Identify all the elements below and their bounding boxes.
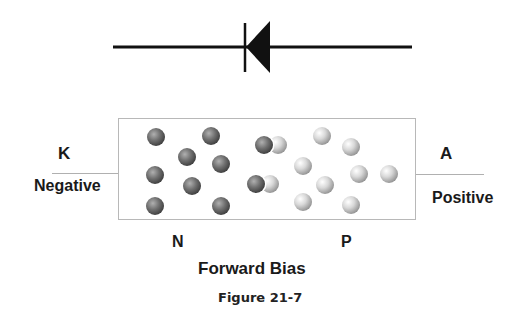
figure-caption: Figure 21-7 (218, 290, 302, 305)
anode-letter-label: A (440, 144, 452, 164)
diagram-title: Forward Bias (198, 259, 306, 279)
cathode-letter-label: K (58, 144, 70, 164)
negative-label: Negative (34, 177, 101, 195)
anode-lead (416, 174, 484, 175)
n-region-label: N (172, 233, 184, 251)
cathode-lead (52, 173, 118, 174)
p-region-label: P (341, 233, 352, 251)
positive-label: Positive (432, 189, 493, 207)
diode-symbol-icon (113, 21, 412, 73)
pn-junction-box (118, 118, 416, 220)
